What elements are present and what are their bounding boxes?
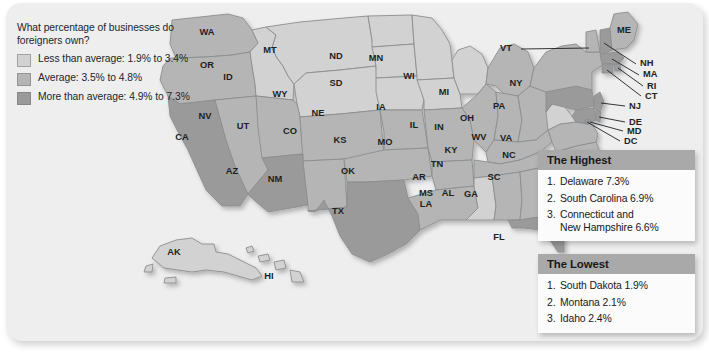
state-label-WI: WI — [403, 71, 414, 81]
leader-CT — [607, 70, 641, 96]
state-label-TX: TX — [332, 206, 345, 216]
rank-text: Connecticut and New Hampshire 6.6% — [560, 209, 659, 234]
legend-item-low: Less than average: 1.9% to 3.4% — [17, 53, 202, 67]
rank-text: Idaho 2.4% — [560, 313, 612, 326]
state-label-ND: ND — [329, 51, 343, 61]
state-label-ID: ID — [223, 72, 233, 82]
ranking-item: 2. South Carolina 6.9% — [547, 193, 686, 206]
map-legend: What percentage of businesses do foreign… — [17, 22, 202, 110]
rank-number: 3. — [547, 313, 560, 326]
legend-swatch-high — [17, 92, 31, 105]
legend-label-mid: Average: 3.5% to 4.8% — [38, 72, 142, 84]
legend-question: What percentage of businesses do foreign… — [17, 22, 202, 47]
state-label-NC: NC — [502, 150, 516, 160]
state-label-KS: KS — [334, 135, 347, 145]
state-label-DC: DC — [624, 136, 638, 146]
state-label-FL: FL — [493, 232, 505, 242]
ranking-item: 2. Montana 2.1% — [547, 297, 686, 310]
state-label-IN: IN — [434, 122, 444, 132]
state-VT[interactable] — [586, 30, 600, 52]
ranking-list-lowest: 1. South Dakota 1.9% 2. Montana 2.1% 3. … — [538, 274, 695, 333]
legend-swatch-low — [17, 54, 31, 67]
state-label-MS: MS — [419, 188, 433, 198]
state-label-MI: MI — [439, 87, 449, 97]
legend-label-low: Less than average: 1.9% to 3.4% — [38, 53, 188, 65]
legend-label-high: More than average: 4.9% to 7.3% — [38, 91, 190, 103]
legend-swatch-mid — [17, 73, 31, 86]
state-label-MD: MD — [627, 126, 642, 136]
leader-RI — [618, 68, 643, 86]
state-label-NM: NM — [268, 174, 283, 184]
state-label-NH: NH — [640, 58, 654, 68]
leader-DE — [599, 117, 625, 122]
state-label-IL: IL — [410, 120, 419, 130]
legend-item-mid: Average: 3.5% to 4.8% — [17, 72, 202, 86]
rank-text: Montana 2.1% — [560, 297, 626, 310]
state-label-AK: AK — [167, 247, 181, 257]
rank-text: South Carolina 6.9% — [560, 193, 653, 206]
state-label-IA: IA — [376, 102, 386, 112]
ranking-box-highest: The Highest 1. Delaware 7.3% 2. South Ca… — [538, 150, 695, 241]
legend-item-high: More than average: 4.9% to 7.3% — [17, 91, 202, 105]
ranking-item: 3. Idaho 2.4% — [547, 313, 686, 326]
state-label-RI: RI — [647, 81, 656, 91]
state-label-KY: KY — [445, 145, 459, 155]
state-label-MN: MN — [369, 53, 384, 63]
state-label-CO: CO — [283, 126, 297, 136]
ranking-item: 1. South Dakota 1.9% — [547, 280, 686, 293]
state-ND[interactable] — [368, 15, 414, 47]
rank-text: Delaware 7.3% — [560, 176, 629, 189]
ranking-title-lowest: The Lowest — [538, 254, 695, 274]
state-label-AZ: AZ — [226, 166, 239, 176]
rank-number: 1. — [547, 280, 560, 293]
state-label-MO: MO — [378, 137, 393, 147]
state-label-AR: AR — [412, 172, 426, 182]
state-label-VA: VA — [500, 133, 513, 143]
rank-text: South Dakota 1.9% — [560, 280, 648, 293]
state-label-NV: NV — [199, 111, 213, 121]
state-NJ[interactable] — [594, 92, 604, 112]
state-MD[interactable] — [572, 108, 596, 124]
state-label-SC: SC — [488, 172, 501, 182]
state-MN[interactable] — [412, 15, 454, 80]
leader-NJ — [601, 103, 625, 106]
state-label-AL: AL — [442, 188, 455, 198]
state-label-OK: OK — [341, 166, 355, 176]
state-label-HI: HI — [264, 271, 273, 281]
state-label-CA: CA — [175, 132, 189, 142]
ranking-box-lowest: The Lowest 1. South Dakota 1.9% 2. Monta… — [538, 254, 695, 333]
state-label-MT: MT — [263, 45, 277, 55]
state-label-PA: PA — [493, 101, 506, 111]
ranking-item: 1. Delaware 7.3% — [547, 176, 686, 189]
state-label-UT: UT — [237, 121, 250, 131]
map-figure: WA OR ID MT WY CA NV UT CO AZ NM ND SD N… — [0, 0, 709, 353]
state-label-NY: NY — [510, 78, 524, 88]
rank-number: 3. — [547, 209, 560, 234]
state-label-VT: VT — [500, 43, 512, 53]
state-label-GA: GA — [464, 189, 478, 199]
ranking-title-highest: The Highest — [538, 150, 695, 170]
ranking-item: 3. Connecticut and New Hampshire 6.6% — [547, 209, 686, 234]
ranking-list-highest: 1. Delaware 7.3% 2. South Carolina 6.9% … — [538, 170, 695, 241]
state-AK[interactable] — [144, 238, 262, 283]
state-WY[interactable] — [294, 66, 380, 117]
rank-number: 1. — [547, 176, 560, 189]
state-label-LA: LA — [420, 199, 433, 209]
state-WI[interactable] — [452, 46, 488, 94]
state-label-NJ: NJ — [629, 101, 641, 111]
rank-number: 2. — [547, 297, 560, 310]
state-label-TN: TN — [431, 159, 444, 169]
state-label-SD: SD — [330, 78, 343, 88]
rank-number: 2. — [547, 193, 560, 206]
state-label-MA: MA — [643, 69, 658, 79]
state-label-WY: WY — [273, 89, 289, 99]
state-label-ME: ME — [617, 25, 631, 35]
state-CT[interactable] — [602, 64, 613, 73]
map-states-group — [144, 12, 638, 283]
state-label-NE: NE — [312, 108, 325, 118]
state-label-OH: OH — [460, 113, 474, 123]
state-label-CT: CT — [645, 91, 658, 101]
state-label-WV: WV — [472, 132, 488, 142]
state-label-OR: OR — [200, 60, 214, 70]
